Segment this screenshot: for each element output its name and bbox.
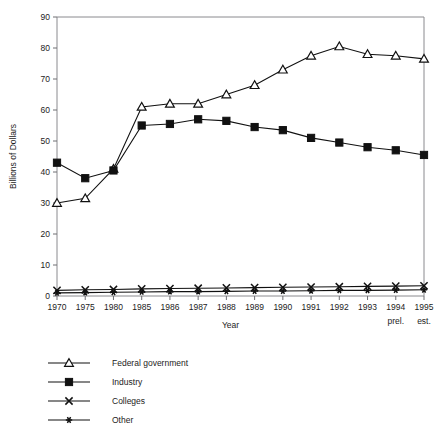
filled-square-marker <box>307 134 314 141</box>
data-point-1-6 <box>223 117 230 124</box>
data-point-0-10 <box>335 42 344 50</box>
legend-item-label: Industry <box>112 377 143 387</box>
filled-square-marker <box>279 127 286 134</box>
x-tick-label: 1989 <box>245 302 264 312</box>
y-tick-label: 40 <box>41 167 51 177</box>
small-star-marker <box>167 289 173 295</box>
filled-square-marker <box>166 120 173 127</box>
data-point-1-9 <box>307 134 314 141</box>
data-point-1-0 <box>53 159 60 166</box>
legend-item-label: Colleges <box>112 396 145 406</box>
x-tick-label: 1970 <box>48 302 67 312</box>
x-tick-label: 1994 <box>386 302 405 312</box>
data-point-0-8 <box>278 65 287 73</box>
data-point-legend-1 <box>65 378 72 385</box>
x-tick-note: est. <box>417 316 431 326</box>
x-tick-label: 1990 <box>273 302 292 312</box>
x-tick-label: 1980 <box>104 302 123 312</box>
legend-item-label: Other <box>112 415 133 425</box>
x-axis: 1970197519801985198619871988198919901991… <box>48 296 434 326</box>
open-triangle-marker <box>250 81 259 89</box>
filled-square-marker <box>223 117 230 124</box>
filled-square-marker <box>336 139 343 146</box>
y-tick-label: 30 <box>41 198 51 208</box>
y-tick-label: 50 <box>41 136 51 146</box>
chart-legend: Federal governmentIndustryCollegesOther <box>48 358 189 425</box>
data-point-1-11 <box>364 144 371 151</box>
data-point-3-4 <box>167 289 173 295</box>
legend-item-colleges[interactable]: Colleges <box>48 396 145 406</box>
legend-item-other[interactable]: Other <box>48 415 133 425</box>
filled-square-marker <box>392 147 399 154</box>
x-tick-label: 1986 <box>160 302 179 312</box>
x-tick-note: prel. <box>387 316 404 326</box>
data-point-1-10 <box>336 139 343 146</box>
data-point-1-2 <box>110 167 117 174</box>
filled-square-marker <box>195 116 202 123</box>
x-tick-label: 1985 <box>132 302 151 312</box>
line-chart-canvas: 0102030405060708090Billions of Dollars19… <box>0 0 442 429</box>
filled-square-marker <box>251 123 258 130</box>
open-triangle-marker <box>335 42 344 50</box>
series-industry <box>53 116 427 182</box>
small-star-marker <box>66 417 72 423</box>
data-point-0-7 <box>250 81 259 89</box>
data-point-1-13 <box>420 151 427 158</box>
x-tick-label: 1987 <box>189 302 208 312</box>
y-tick-label: 80 <box>41 43 51 53</box>
small-star-marker <box>138 289 144 295</box>
data-point-3-3 <box>138 289 144 295</box>
filled-square-marker <box>110 167 117 174</box>
data-point-1-7 <box>251 123 258 130</box>
filled-square-marker <box>364 144 371 151</box>
y-tick-label: 70 <box>41 74 51 84</box>
filled-square-marker <box>138 122 145 129</box>
x-tick-label: 1975 <box>76 302 95 312</box>
data-point-1-4 <box>166 120 173 127</box>
data-point-legend-3 <box>66 417 72 423</box>
x-axis-title: Year <box>222 320 239 330</box>
y-tick-label: 90 <box>41 12 51 22</box>
filled-square-marker <box>53 159 60 166</box>
x-tick-label: 1993 <box>358 302 377 312</box>
axes-frame <box>57 17 424 296</box>
x-tick-label: 1988 <box>217 302 236 312</box>
legend-item-label: Federal government <box>112 358 189 368</box>
y-tick-label: 0 <box>45 291 50 301</box>
data-point-1-8 <box>279 127 286 134</box>
chart-figure: 0102030405060708090Billions of Dollars19… <box>0 0 442 429</box>
data-point-1-5 <box>195 116 202 123</box>
y-axis: 0102030405060708090 <box>41 12 57 301</box>
y-tick-label: 20 <box>41 229 51 239</box>
x-tick-label: 1991 <box>302 302 321 312</box>
y-tick-label: 60 <box>41 105 51 115</box>
x-tick-label: 1992 <box>330 302 349 312</box>
clipped-header-text <box>150 0 440 3</box>
y-tick-label: 10 <box>41 260 51 270</box>
filled-square-marker <box>82 175 89 182</box>
legend-item-industry[interactable]: Industry <box>48 377 143 387</box>
filled-square-marker <box>65 378 72 385</box>
open-triangle-marker <box>278 65 287 73</box>
series-polyline <box>57 46 424 203</box>
filled-square-marker <box>420 151 427 158</box>
data-point-1-12 <box>392 147 399 154</box>
data-point-1-1 <box>82 175 89 182</box>
y-axis-title: Billions of Dollars <box>8 124 18 189</box>
legend-item-federal-government[interactable]: Federal government <box>48 358 189 368</box>
data-point-1-3 <box>138 122 145 129</box>
x-tick-label: 1995 <box>415 302 434 312</box>
